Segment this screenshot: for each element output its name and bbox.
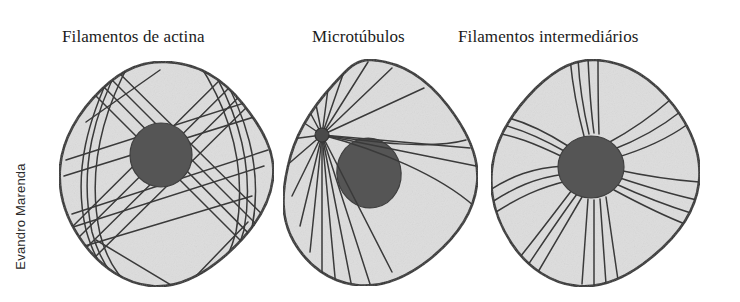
figure-container: Filamentos de actina Microtúbulos Filame… <box>0 0 740 302</box>
cell-actin-filaments <box>60 62 276 292</box>
nucleus-actin-cell <box>130 123 192 187</box>
cell-intermediate-filaments <box>488 58 700 286</box>
nucleus-intermediate-cell <box>558 136 624 198</box>
cell-diagram-canvas <box>0 0 740 302</box>
centrosome <box>315 128 329 142</box>
cell-microtubules <box>283 58 477 288</box>
